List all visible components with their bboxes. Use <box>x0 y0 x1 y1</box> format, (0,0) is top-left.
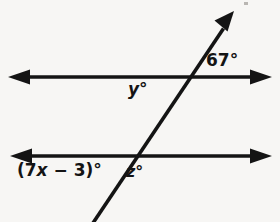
angle-label-y: y° <box>128 81 148 98</box>
angle-label-z-degree-symbol: ° <box>135 162 143 181</box>
angle-label-7x-variable: x <box>37 160 48 180</box>
transversal-segment <box>93 29 224 222</box>
bottom-line-right-arrowhead <box>250 149 272 164</box>
angle-label-7x-degree-symbol: ° <box>93 160 102 180</box>
angle-label-y-variable: y <box>128 79 139 99</box>
figure-canvas <box>0 0 280 222</box>
transversal-arrowhead <box>215 11 235 32</box>
transversal-line <box>93 11 234 222</box>
angle-label-67: 67° <box>206 52 238 69</box>
angle-label-7x-rest: − 3) <box>48 160 94 180</box>
angle-label-7x-open: (7 <box>17 160 37 180</box>
angle-label-7x-minus-3: (7x − 3)° <box>17 162 102 179</box>
angle-label-z: z° <box>126 164 143 180</box>
geometry-figure: 67° y° (7x − 3)° z° <box>0 0 280 222</box>
angle-label-y-degree-symbol: ° <box>139 79 148 99</box>
top-line-right-arrowhead <box>250 70 272 85</box>
angle-label-z-variable: z <box>126 162 135 181</box>
scan-artifact-speck <box>244 2 248 5</box>
top-line-left-arrowhead <box>8 70 30 85</box>
